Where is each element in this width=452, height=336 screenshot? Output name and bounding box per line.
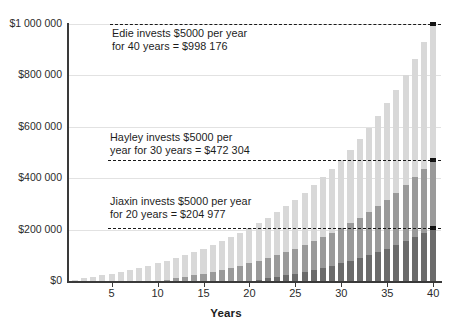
bar-hayley-year-19 bbox=[237, 266, 243, 281]
x-tick-label: 20 bbox=[243, 287, 255, 299]
x-tick-mark bbox=[204, 283, 205, 287]
x-tick-mark bbox=[433, 283, 434, 287]
bar-jiaxin-year-26 bbox=[302, 272, 308, 281]
bar-jiaxin-year-37 bbox=[403, 241, 409, 281]
x-tick-mark bbox=[341, 283, 342, 287]
y-tick-label: $1 000 000 bbox=[0, 17, 62, 29]
bar-hayley-year-18 bbox=[228, 268, 234, 281]
x-tick-label: 15 bbox=[197, 287, 209, 299]
bar-edie-year-10 bbox=[155, 263, 161, 281]
x-tick-label: 25 bbox=[289, 287, 301, 299]
bar-jiaxin-year-29 bbox=[329, 266, 335, 281]
bar-jiaxin-year-34 bbox=[375, 252, 381, 281]
x-tick-mark bbox=[249, 283, 250, 287]
bar-jiaxin-year-30 bbox=[338, 263, 344, 281]
bar-jiaxin-year-38 bbox=[412, 237, 418, 281]
y-tick-label: $800 000 bbox=[0, 68, 62, 80]
bar-jiaxin-year-40 bbox=[430, 228, 436, 281]
bar-jiaxin-year-28 bbox=[320, 268, 326, 281]
x-tick-label: 30 bbox=[335, 287, 347, 299]
bar-edie-year-6 bbox=[118, 272, 124, 281]
bar-jiaxin-year-27 bbox=[311, 270, 317, 281]
bar-jiaxin-year-35 bbox=[384, 249, 390, 281]
x-tick-label: 10 bbox=[151, 287, 163, 299]
x-axis-line bbox=[67, 281, 442, 283]
bar-jiaxin-year-32 bbox=[357, 258, 363, 281]
x-tick-label: 35 bbox=[381, 287, 393, 299]
bar-jiaxin-year-31 bbox=[347, 261, 353, 281]
bar-edie-year-9 bbox=[145, 266, 151, 281]
bar-jiaxin-year-25 bbox=[292, 274, 298, 281]
y-axis-line bbox=[67, 23, 69, 282]
x-tick-mark bbox=[295, 283, 296, 287]
gridline bbox=[68, 75, 441, 76]
annotation-text-edie: Edie invests $5000 per year for 40 years… bbox=[112, 27, 247, 53]
x-tick-mark bbox=[112, 283, 113, 287]
bar-hayley-year-20 bbox=[246, 263, 252, 281]
y-tick-label: $200 000 bbox=[0, 223, 62, 235]
bar-hayley-year-15 bbox=[200, 274, 206, 281]
x-tick-label: 5 bbox=[109, 287, 115, 299]
bar-edie-year-7 bbox=[127, 270, 133, 281]
bar-hayley-year-16 bbox=[210, 272, 216, 281]
bar-edie-year-11 bbox=[164, 261, 170, 281]
y-tick-label: $400 000 bbox=[0, 171, 62, 183]
x-axis-title: Years bbox=[0, 307, 452, 319]
x-tick-mark bbox=[387, 283, 388, 287]
compound-interest-chart: $0$200 000$400 000$600 000$800 000$1 000… bbox=[0, 0, 452, 336]
bar-edie-year-8 bbox=[136, 268, 142, 281]
x-tick-label: 40 bbox=[427, 287, 439, 299]
y-tick-label: $0 bbox=[0, 274, 62, 286]
bar-jiaxin-year-36 bbox=[393, 245, 399, 281]
bar-hayley-year-17 bbox=[219, 270, 225, 281]
annotation-text-hayley: Hayley invests $5000 per year for 30 yea… bbox=[110, 131, 250, 157]
annotation-line-edie bbox=[110, 24, 441, 25]
annotation-text-jiaxin: Jiaxin invests $5000 per year for 20 yea… bbox=[110, 195, 251, 221]
x-tick-mark bbox=[158, 283, 159, 287]
annotation-line-hayley bbox=[108, 160, 441, 161]
y-tick-label: $600 000 bbox=[0, 120, 62, 132]
bar-hayley-year-21 bbox=[256, 261, 262, 281]
bar-edie-year-5 bbox=[109, 274, 115, 281]
bar-jiaxin-year-39 bbox=[421, 233, 427, 281]
bar-jiaxin-year-33 bbox=[366, 255, 372, 281]
annotation-line-jiaxin bbox=[108, 228, 441, 229]
